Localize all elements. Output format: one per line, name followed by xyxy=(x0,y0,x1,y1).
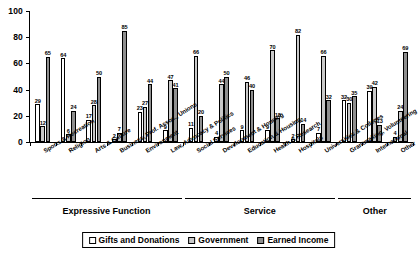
bar-value-label: 32 xyxy=(326,94,332,100)
bar xyxy=(46,57,51,142)
section-rule xyxy=(338,198,412,199)
bar-value-label: 82 xyxy=(295,28,301,34)
bar-value-label: 64 xyxy=(60,52,66,58)
y-tick-label: 100 xyxy=(8,6,23,16)
bar-group: 2785 xyxy=(112,11,127,142)
y-tick-label: 80 xyxy=(13,32,23,42)
y-tick-mark xyxy=(26,90,29,91)
legend-swatch xyxy=(188,237,195,244)
legend-label: Earned Income xyxy=(267,235,328,245)
y-tick-mark xyxy=(26,37,29,38)
bar-value-label: 66 xyxy=(321,49,327,55)
y-tick-label: 60 xyxy=(13,58,23,68)
bar-group: 64624 xyxy=(61,11,76,142)
legend-swatch xyxy=(257,237,264,244)
bar-value-label: 42 xyxy=(372,80,378,86)
bar xyxy=(40,126,45,142)
y-tick-mark xyxy=(26,63,29,64)
bar-group: 116620 xyxy=(189,11,204,142)
bar-value-label: 29 xyxy=(35,98,41,104)
legend-label: Gifts and Donations xyxy=(99,235,180,245)
y-axis: 020406080100 xyxy=(0,0,26,150)
bar-value-label: 46 xyxy=(244,75,250,81)
bar-value-label: 20 xyxy=(198,109,204,115)
y-tick-mark xyxy=(26,11,29,12)
section-rule xyxy=(185,198,335,199)
bar-value-label: 35 xyxy=(351,90,357,96)
bar-value-label: 40 xyxy=(249,83,255,89)
bar-value-label: 9 xyxy=(240,124,243,130)
bar xyxy=(61,58,66,142)
category-labels: Sports & RecreationReligionArts & Cultur… xyxy=(0,146,417,202)
bar-value-label: 85 xyxy=(121,24,127,30)
section-label: Other xyxy=(363,206,387,216)
bar-group: 94640 xyxy=(240,11,255,142)
bar-group: 291265 xyxy=(35,11,50,142)
bar-value-label: 24 xyxy=(70,104,76,110)
section-label: Service xyxy=(244,206,276,216)
bar-value-label: 66 xyxy=(193,49,199,55)
bar-group: 323035 xyxy=(342,11,357,142)
section-rule xyxy=(32,198,182,199)
bar-value-label: 65 xyxy=(45,50,51,56)
bar xyxy=(122,31,127,142)
legend-swatch xyxy=(89,237,96,244)
legend-item: Gifts and Donations xyxy=(89,235,180,245)
bar xyxy=(97,77,102,143)
legend-label: Government xyxy=(198,235,248,245)
bar-value-label: 70 xyxy=(270,44,276,50)
y-tick-mark xyxy=(26,116,29,117)
chart-legend: Gifts and DonationsGovernmentEarned Inco… xyxy=(82,232,336,248)
bar-value-label: 69 xyxy=(402,45,408,51)
bar xyxy=(270,50,275,142)
bar-value-label: 50 xyxy=(224,70,230,76)
bar xyxy=(326,100,331,142)
bar-value-label: 50 xyxy=(96,70,102,76)
section-label: Expressive Function xyxy=(63,206,151,216)
y-tick-mark xyxy=(26,142,29,143)
y-tick-label: 20 xyxy=(13,111,23,121)
bar-group: 232744 xyxy=(138,11,153,142)
bar-value-label: 47 xyxy=(167,74,173,80)
bar xyxy=(296,35,301,142)
bar-value-label: 41 xyxy=(173,82,179,88)
y-tick-label: 40 xyxy=(13,85,23,95)
bar-value-label: 44 xyxy=(147,78,153,84)
section-brackets: Expressive FunctionServiceOther xyxy=(0,198,417,232)
legend-item: Government xyxy=(188,235,248,245)
legend-item: Earned Income xyxy=(257,235,328,245)
